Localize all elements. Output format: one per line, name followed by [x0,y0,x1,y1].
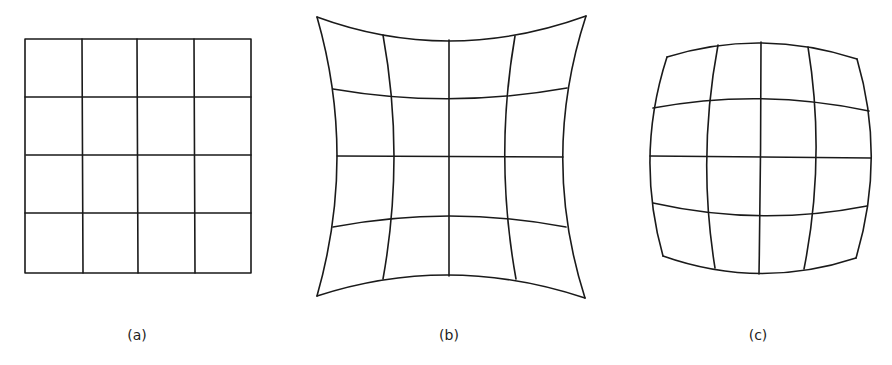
grid-b-left-edge [317,17,337,296]
grid-a-vline [82,39,83,273]
grid-c-vline [759,42,761,274]
grid-a-vline [194,39,195,273]
grid-c-top-edge [667,43,857,59]
grid-a-vline [137,39,138,273]
grid-b-top-edge [317,16,586,41]
figure-canvas [0,0,892,365]
panel-a-label: (a) [127,327,147,343]
grid-b-hline [333,88,567,99]
panel-c-label: (c) [749,327,768,343]
grid-b-bottom-edge [317,275,585,298]
grid-a-undistorted [25,39,251,273]
grid-b-hline [337,156,563,157]
grid-b-right-edge [563,16,586,298]
panel-b-label: (b) [439,327,459,343]
grid-c-barrel [650,42,871,274]
grid-b-pincushion [317,16,586,298]
